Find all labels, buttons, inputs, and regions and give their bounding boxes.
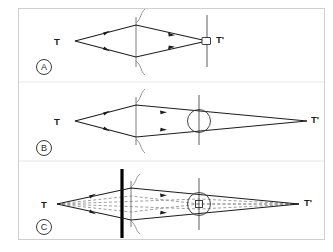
panel-b-lens [136, 89, 145, 153]
ray-diagram-svg: T T' A [19, 9, 324, 239]
panel-a-lens [136, 9, 145, 75]
panel-b-rays [75, 105, 307, 137]
panel-c-source-label: T [41, 199, 47, 210]
panel-a-image-label: T' [216, 34, 224, 45]
panel-b-image-label: T' [311, 114, 319, 125]
panel-c-letter-badge: C [37, 220, 52, 235]
panel-b-letter-badge: B [37, 141, 52, 156]
panel-a: T T' A [37, 9, 225, 75]
panel-c-letter: C [41, 222, 48, 232]
panel-a-source-label: T [54, 36, 60, 47]
panel-a-detector [202, 38, 211, 45]
panel-a-letter-badge: A [37, 60, 52, 75]
panel-b: T T' B [37, 89, 320, 156]
figure-root: T T' A [0, 0, 333, 252]
panel-b-source-label: T [54, 116, 60, 127]
panel-b-letter: B [41, 143, 47, 153]
panel-a-rays [75, 25, 207, 57]
figure-frame: T T' A [18, 8, 325, 240]
panel-c: T T' C [37, 169, 313, 238]
panel-a-letter: A [41, 62, 47, 72]
panel-c-image-label: T' [304, 197, 312, 208]
panel-c-rays [57, 188, 299, 220]
panel-c-lens [131, 174, 140, 234]
panel-c-dashed-rays [57, 196, 299, 212]
